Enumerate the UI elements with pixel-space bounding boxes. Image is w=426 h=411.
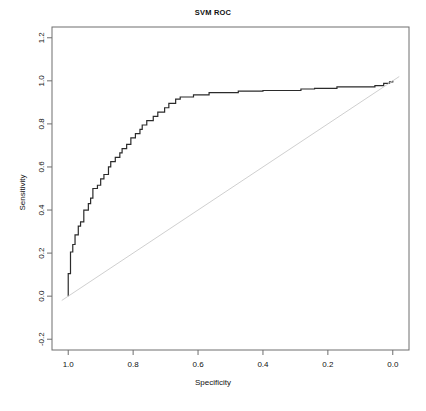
x-tick-label: 0.8 [128, 360, 140, 369]
y-tick-label: 0.4 [37, 204, 46, 216]
y-tick-label: 1.0 [37, 75, 46, 87]
x-tick-label: 0.4 [257, 360, 269, 369]
y-tick-label: -0.2 [37, 332, 46, 346]
y-tick-label: 1.2 [37, 32, 46, 44]
roc-chart-figure: SVM ROC 1.00.80.60.40.20.0 -0.20.00.20.4… [0, 0, 426, 411]
x-tick-label: 0.0 [387, 360, 399, 369]
chart-canvas: 1.00.80.60.40.20.0 -0.20.00.20.40.60.81.… [0, 0, 426, 411]
x-axis-ticks: 1.00.80.60.40.20.0 [63, 350, 399, 369]
x-tick-label: 0.6 [192, 360, 204, 369]
x-axis-label: Specificity [0, 378, 426, 387]
y-tick-label: 0.2 [37, 247, 46, 259]
y-tick-label: 0.8 [37, 118, 46, 130]
y-axis-ticks: -0.20.00.20.40.60.81.01.2 [37, 32, 52, 346]
chance-diagonal-line [62, 77, 400, 301]
data-series-group [62, 77, 400, 301]
y-tick-label: 0.6 [37, 161, 46, 173]
x-tick-label: 0.2 [322, 360, 334, 369]
x-tick-label: 1.0 [63, 360, 75, 369]
y-tick-label: 0.0 [37, 290, 46, 302]
y-axis-label: Sensitivity [18, 133, 27, 253]
